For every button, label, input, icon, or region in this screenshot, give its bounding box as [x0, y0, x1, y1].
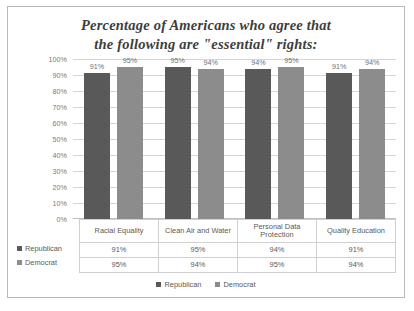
- table-header-cell: Personal Data Protection: [238, 220, 317, 243]
- bar-republican-personal-data-protection: 94%: [245, 69, 271, 219]
- table-cell: 91%: [317, 243, 396, 258]
- bar-democrat-racial-equality: 95%: [117, 67, 143, 219]
- legend-swatch-democrat-icon: [215, 282, 220, 287]
- table-header-cell: Racial Equality: [80, 220, 159, 243]
- bar-democrat-personal-data-protection: 95%: [278, 67, 304, 219]
- data-table: Racial Equality Clean Air and Water Pers…: [79, 219, 396, 273]
- chart-legend-item-republican: Republican: [156, 277, 201, 291]
- y-axis-tick: 80%: [53, 87, 67, 96]
- legend-swatch-republican-icon: [17, 246, 22, 251]
- legend-label-republican: Republican: [25, 244, 62, 253]
- y-axis-tick: 30%: [53, 167, 67, 176]
- y-axis-tick: 40%: [53, 151, 67, 160]
- bar-value-label: 94%: [251, 58, 265, 67]
- table-row: 91% 95% 94% 91%: [80, 243, 396, 258]
- bar-holder: 95%: [117, 59, 143, 219]
- bar-value-label: 94%: [365, 58, 379, 67]
- bar-holder: 95%: [278, 59, 304, 219]
- y-axis-tick: 70%: [53, 103, 67, 112]
- y-axis-tick: 100%: [49, 55, 67, 64]
- table-cell: 95%: [159, 243, 238, 258]
- bar-democrat-clean-air-and-water: 94%: [198, 69, 224, 219]
- table-cell: 94%: [159, 258, 238, 273]
- y-axis-tick: 10%: [53, 199, 67, 208]
- chart-container: Percentage of Americans who agree that t…: [7, 6, 405, 298]
- table-cell: 91%: [80, 243, 159, 258]
- legend-row-democrat: Democrat: [17, 255, 77, 269]
- bar-republican-clean-air-and-water: 95%: [165, 67, 191, 219]
- y-axis-tick: 50%: [53, 135, 67, 144]
- table-cell: 94%: [317, 258, 396, 273]
- y-axis-tick: 20%: [53, 183, 67, 192]
- bar-value-label: 91%: [90, 62, 104, 71]
- bar-group-racial-equality: 91% 95%: [73, 59, 154, 219]
- bar-holder: 94%: [359, 59, 385, 219]
- plot-area: 100% 90% 80% 70% 60% 50% 40% 30% 20% 10%…: [9, 59, 404, 231]
- bar-value-label: 94%: [203, 58, 217, 67]
- table-header-cell: Quality Education: [317, 220, 396, 243]
- bar-republican-quality-education: 91%: [326, 73, 352, 219]
- bar-democrat-quality-education: 94%: [359, 69, 385, 219]
- chart-legend-label: Republican: [164, 280, 201, 289]
- bar-value-label: 95%: [123, 56, 137, 65]
- bar-holder: 94%: [245, 59, 271, 219]
- bar-holder: 91%: [84, 59, 110, 219]
- legend-row-republican: Republican: [17, 241, 77, 255]
- table-cell: 95%: [80, 258, 159, 273]
- chart-legend-item-democrat: Democrat: [215, 277, 255, 291]
- legend-label-democrat: Democrat: [25, 258, 57, 267]
- bar-group-personal-data-protection: 94% 95%: [235, 59, 316, 219]
- bar-republican-racial-equality: 91%: [84, 73, 110, 219]
- plot-canvas: 91% 95% 95%: [73, 59, 396, 219]
- table-header-cell: Clean Air and Water: [159, 220, 238, 243]
- bar-value-label: 91%: [332, 62, 346, 71]
- data-table-zone: Republican Democrat Racial Equality Clea…: [9, 219, 404, 271]
- table-row: 95% 94% 95% 94%: [80, 258, 396, 273]
- table-header-row: Racial Equality Clean Air and Water Pers…: [80, 220, 396, 243]
- bar-group-clean-air-and-water: 95% 94%: [154, 59, 235, 219]
- bar-group-quality-education: 91% 94%: [315, 59, 396, 219]
- bar-holder: 95%: [165, 59, 191, 219]
- bar-groups: 91% 95% 95%: [73, 59, 396, 219]
- bar-value-label: 95%: [284, 56, 298, 65]
- table-row-legend: Republican Democrat: [17, 241, 77, 269]
- bar-holder: 91%: [326, 59, 352, 219]
- y-axis-tick: 90%: [53, 71, 67, 80]
- chart-legend-label: Democrat: [223, 280, 255, 289]
- y-axis: 100% 90% 80% 70% 60% 50% 40% 30% 20% 10%…: [9, 59, 71, 219]
- chart-title: Percentage of Americans who agree that t…: [8, 16, 404, 54]
- legend-swatch-republican-icon: [156, 282, 161, 287]
- bar-holder: 94%: [198, 59, 224, 219]
- chart-title-line-1: Percentage of Americans who agree that: [81, 17, 331, 33]
- y-axis-tick: 60%: [53, 119, 67, 128]
- chart-legend: Republican Democrat: [8, 277, 404, 291]
- table-cell: 95%: [238, 258, 317, 273]
- chart-title-line-2: the following are "essential" rights:: [8, 35, 404, 54]
- legend-swatch-democrat-icon: [17, 260, 22, 265]
- bar-value-label: 95%: [170, 56, 184, 65]
- table-cell: 94%: [238, 243, 317, 258]
